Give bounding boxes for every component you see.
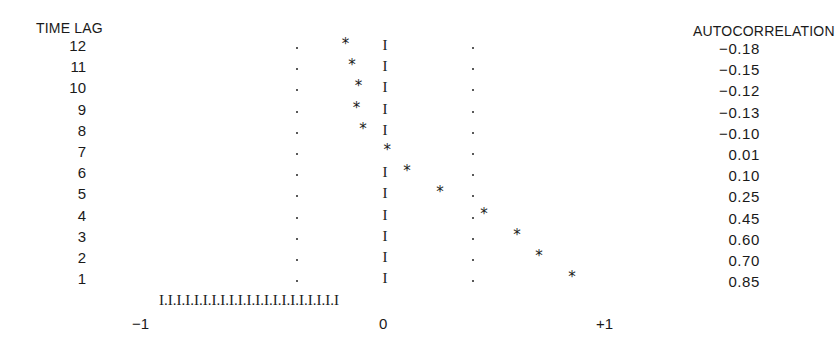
autocorrelation-header: AUTOCORRELATION [693, 23, 835, 39]
autocorrelation-value: 0.85 [690, 273, 760, 290]
autocorrelation-point: * [353, 99, 361, 117]
lower-confidence-dot [296, 132, 298, 134]
lag-label: 9 [56, 101, 86, 118]
lower-confidence-dot [296, 89, 298, 91]
zero-line-marker: I [383, 122, 388, 139]
lag-label: 6 [56, 164, 86, 181]
autocorrelation-point: * [383, 141, 391, 159]
zero-line-marker: I [383, 79, 388, 96]
upper-confidence-dot [472, 174, 474, 176]
lag-label: 3 [56, 228, 86, 245]
autocorrelation-point: * [436, 183, 444, 201]
autocorrelation-value: −0.18 [690, 40, 760, 57]
upper-confidence-dot [472, 238, 474, 240]
upper-confidence-dot [472, 47, 474, 49]
autocorrelation-value: 0.25 [690, 188, 760, 205]
autocorrelation-value: −0.12 [690, 82, 760, 99]
zero-line-marker: I [383, 270, 388, 287]
autocorrelation-point: * [348, 56, 356, 74]
lag-label: 7 [56, 143, 86, 160]
x-axis-max-label: +1 [596, 315, 613, 332]
lower-confidence-dot [296, 238, 298, 240]
autocorrelation-point: * [355, 77, 363, 95]
autocorrelation-value: 0.70 [690, 252, 760, 269]
lag-label: 4 [56, 207, 86, 224]
upper-confidence-dot [472, 132, 474, 134]
autocorrelation-point: * [342, 35, 350, 53]
zero-line-marker: I [383, 228, 388, 245]
upper-confidence-dot [472, 217, 474, 219]
autocorrelation-point: * [513, 226, 521, 244]
autocorrelation-value: −0.10 [690, 125, 760, 142]
zero-line-marker: I [383, 37, 388, 54]
lag-label: 2 [56, 249, 86, 266]
autocorrelation-point: * [535, 247, 543, 265]
x-axis-zero-label: 0 [379, 315, 387, 332]
autocorrelation-value: −0.15 [690, 61, 760, 78]
lower-confidence-dot [296, 68, 298, 70]
autocorrelation-point: * [359, 120, 367, 138]
autocorrelation-value: 0.60 [690, 231, 760, 248]
lag-label: 1 [56, 270, 86, 287]
autocorrelation-value: 0.45 [690, 210, 760, 227]
lag-label: 10 [56, 79, 86, 96]
autocorrelation-value: 0.01 [690, 146, 760, 163]
autocorrelation-point: * [568, 268, 576, 286]
upper-confidence-dot [472, 68, 474, 70]
zero-line-marker: I [383, 249, 388, 266]
lower-confidence-dot [296, 111, 298, 113]
zero-line-marker: I [383, 185, 388, 202]
lag-label: 5 [56, 185, 86, 202]
autocorrelation-value: 0.10 [690, 167, 760, 184]
upper-confidence-dot [472, 280, 474, 282]
lower-confidence-dot [296, 174, 298, 176]
lower-confidence-dot [296, 217, 298, 219]
zero-line-marker: I [383, 207, 388, 224]
upper-confidence-dot [472, 89, 474, 91]
autocorrelation-point: * [480, 205, 488, 223]
upper-confidence-dot [472, 259, 474, 261]
x-axis-min-label: −1 [132, 315, 149, 332]
zero-line-marker: I [383, 164, 388, 181]
lower-confidence-dot [296, 47, 298, 49]
lower-confidence-dot [296, 153, 298, 155]
zero-line-marker: I [383, 101, 388, 118]
upper-confidence-dot [472, 195, 474, 197]
zero-line-marker: I [383, 58, 388, 75]
upper-confidence-dot [472, 111, 474, 113]
lag-label: 12 [56, 37, 86, 54]
lower-confidence-dot [296, 259, 298, 261]
lower-confidence-dot [296, 195, 298, 197]
autocorrelation-value: −0.13 [690, 104, 760, 121]
time-lag-header: TIME LAG [36, 20, 103, 36]
x-axis-ticks: I.I.I.I.I.I.I.I.I.I.I.I.I.I.I.I.I.I.I.I.… [159, 292, 339, 309]
lower-confidence-dot [296, 280, 298, 282]
lag-label: 8 [56, 122, 86, 139]
lag-label: 11 [56, 58, 86, 75]
autocorrelation-point: * [403, 162, 411, 180]
upper-confidence-dot [472, 153, 474, 155]
